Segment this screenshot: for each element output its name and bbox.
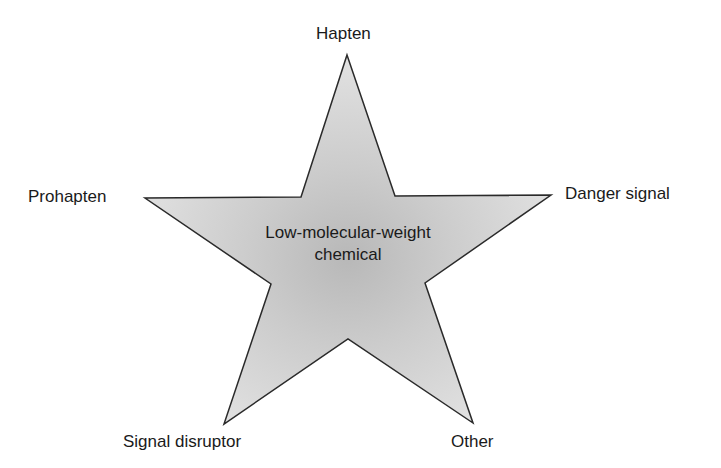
label-prohapten: Prohapten bbox=[28, 188, 106, 205]
center-label: Low-molecular-weight chemical bbox=[233, 222, 463, 266]
label-other: Other bbox=[451, 433, 494, 450]
label-danger-signal: Danger signal bbox=[565, 185, 670, 202]
center-label-line2: chemical bbox=[233, 244, 463, 266]
center-label-line1: Low-molecular-weight bbox=[233, 222, 463, 244]
label-hapten: Hapten bbox=[316, 25, 371, 42]
label-signal-disruptor: Signal disruptor bbox=[123, 433, 241, 450]
